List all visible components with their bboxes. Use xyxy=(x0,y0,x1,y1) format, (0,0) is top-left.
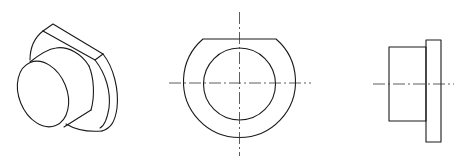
flange-top-front-edge xyxy=(43,31,103,60)
flange-top-back-edge xyxy=(43,24,103,54)
drawing-canvas: Three-view engineering drawing of a flan… xyxy=(0,0,469,162)
technical-drawing xyxy=(0,0,469,162)
flange-rectangle xyxy=(426,40,441,142)
flange-left-arc xyxy=(30,31,43,60)
boss-bottom-line xyxy=(64,110,91,127)
side-view xyxy=(373,40,454,142)
boss-right-curve xyxy=(89,66,93,110)
flange-inner-arc xyxy=(95,60,109,128)
front-view xyxy=(169,12,311,156)
boss-top-curve xyxy=(30,48,89,66)
flange-outer-arc xyxy=(102,54,117,131)
boss-front-face xyxy=(8,53,78,134)
isometric-view xyxy=(8,24,117,135)
flange-bottom-arc xyxy=(66,124,102,131)
